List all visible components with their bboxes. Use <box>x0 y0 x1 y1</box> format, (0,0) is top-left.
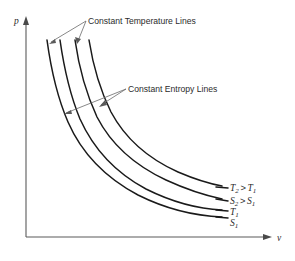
connector-t1 <box>216 210 228 211</box>
curve-t1 <box>60 40 222 210</box>
pressure-axis-label: p <box>13 16 19 26</box>
label-connectors-group <box>216 187 228 218</box>
connector-t2 <box>216 187 228 188</box>
annotation-constant-temperature-lines: Constant Temperature Lines <box>88 16 196 26</box>
specific-volume-axis-arrowhead <box>263 234 272 240</box>
curve-label-t2-subscript: 2 <box>235 187 239 195</box>
pv-diagram-canvas: p v Constant Temperature Lines Constant … <box>0 0 295 261</box>
temperature-leader-left-arrowhead <box>49 39 56 44</box>
curve-label-s2-relation: > <box>240 195 246 206</box>
curve-label-t2-relation: > <box>240 182 246 193</box>
curve-s2 <box>75 40 222 199</box>
curve-label-t2-gt-t1: T2>T1 <box>230 182 256 195</box>
specific-volume-axis-label: v <box>277 233 282 243</box>
curve-label-s1-subscript-ref: 1 <box>252 200 256 208</box>
annotation-constant-entropy-lines: Constant Entropy Lines <box>128 84 217 94</box>
curves-group <box>47 40 222 217</box>
connector-s2 <box>216 199 228 201</box>
curve-label-t1-subscript-ref: 1 <box>253 187 257 195</box>
connector-s1 <box>216 217 228 218</box>
temperature-leader-left <box>51 21 86 42</box>
entropy-leader-lower <box>66 89 126 113</box>
pv-diagram: p v Constant Temperature Lines Constant … <box>0 0 295 261</box>
curve-label-s1-subscript: 1 <box>235 222 239 230</box>
temperature-leader-right <box>78 21 86 41</box>
entropy-leader-lower-arrowhead <box>64 110 72 114</box>
curve-label-t1-subscript: 1 <box>235 211 239 219</box>
curve-s1 <box>47 40 222 217</box>
curve-label-s2-subscript: 2 <box>235 200 239 208</box>
curve-t2 <box>89 40 222 186</box>
temperature-leader-group <box>49 21 86 44</box>
pressure-axis-arrowhead <box>23 16 29 25</box>
